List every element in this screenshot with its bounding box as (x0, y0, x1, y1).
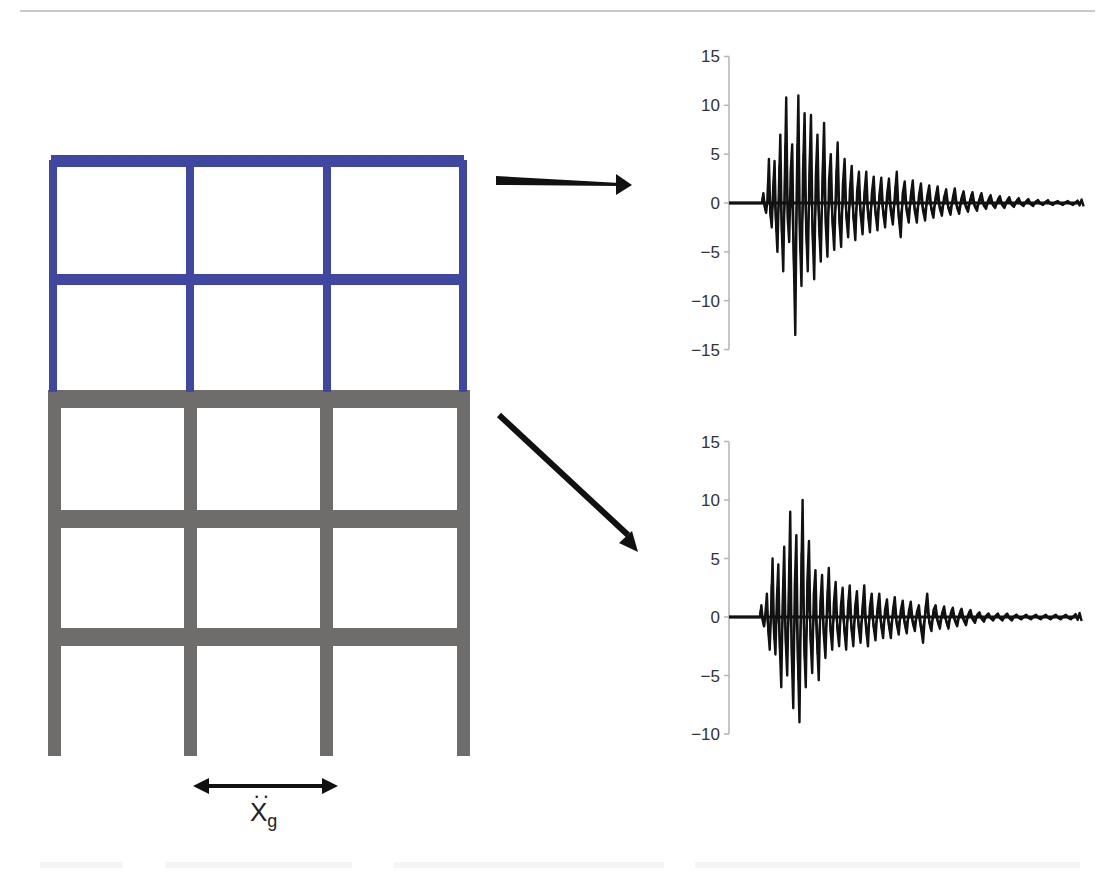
double-dot-accent: ·· (253, 783, 272, 809)
y-tick-label: 5 (711, 145, 720, 164)
y-tick-label: −5 (701, 667, 720, 686)
y-tick-label: −5 (701, 243, 720, 262)
y-tick-label: 0 (711, 608, 720, 627)
y-tick-label: 0 (711, 194, 720, 213)
faded-caption-text (40, 862, 1080, 868)
arrow-to-bottom-chart-icon (499, 415, 638, 552)
y-tick-label: −10 (691, 725, 720, 744)
column (457, 392, 470, 756)
beam (52, 628, 466, 646)
column (48, 392, 61, 756)
y-tick-label: 10 (701, 491, 720, 510)
y-tick-label: −15 (691, 341, 720, 360)
y-tick-label: −10 (691, 292, 720, 311)
y-tick-label: 15 (701, 433, 720, 452)
arrow-to-top-chart-icon (496, 174, 632, 195)
upper-frame (49, 155, 467, 392)
beam (52, 510, 466, 528)
figure-canvas: 151050−5−10−15 151050−5−10 (0, 0, 1115, 879)
y-tick-label: 15 (701, 47, 720, 66)
beam (51, 274, 464, 285)
y-tick-label: 5 (711, 550, 720, 569)
y-tick-label: 10 (701, 96, 720, 115)
lower-frame (48, 390, 470, 756)
beam (51, 155, 464, 167)
column (184, 392, 197, 756)
bottom-acceleration-chart: 151050−5−10 (691, 433, 1081, 745)
top-acceleration-chart: 151050−5−10−15 (691, 47, 1083, 359)
column (320, 392, 333, 756)
beam (48, 390, 470, 408)
label-subscript: g (267, 811, 277, 831)
ground-acceleration-label: ··Xg (250, 797, 277, 832)
